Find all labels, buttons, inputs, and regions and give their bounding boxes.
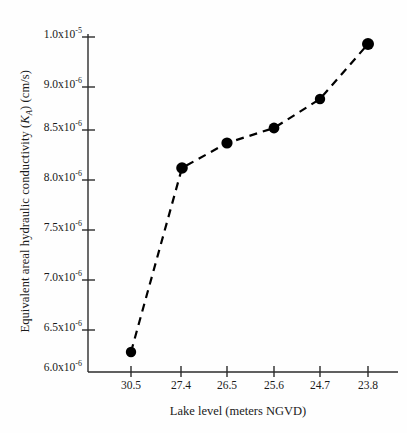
x-tick-label-23.8: 23.8 [346, 379, 390, 391]
y-tick-label-6.0e-6: 6.0x10-6 [26, 362, 82, 374]
data-series-markers [126, 38, 374, 357]
data-point [126, 347, 136, 357]
chart-figure: Equivalent areal hydraulic conductivity … [0, 0, 407, 433]
y-tick-label-8.5e-6: 8.5x10-6 [26, 122, 82, 134]
data-point [362, 38, 374, 50]
x-tick-label-25.6: 25.6 [252, 379, 296, 391]
data-point [315, 94, 325, 104]
data-point [269, 123, 280, 134]
y-tick-label-1.0e-5: 1.0x10-5 [26, 29, 82, 41]
y-tick-label-9.0e-6: 9.0x10-6 [26, 79, 82, 91]
y-tick-label-6.5e-6: 6.5x10-6 [26, 322, 82, 334]
y-tick-label-7.5e-6: 7.5x10-6 [26, 222, 82, 234]
data-series-line [131, 44, 368, 352]
x-tick-label-26.5: 26.5 [205, 379, 249, 391]
x-tick-label-27.4: 27.4 [159, 379, 203, 391]
y-tick-label-8.0e-6: 8.0x10-6 [26, 172, 82, 184]
y-tick-label-7.0e-6: 7.0x10-6 [26, 272, 82, 284]
x-tick-label-30.5: 30.5 [109, 379, 153, 391]
data-point [221, 137, 232, 148]
x-axis-title: Lake level (meters NGVD) [88, 404, 388, 419]
data-point [176, 162, 188, 174]
x-tick-label-24.7: 24.7 [298, 379, 342, 391]
